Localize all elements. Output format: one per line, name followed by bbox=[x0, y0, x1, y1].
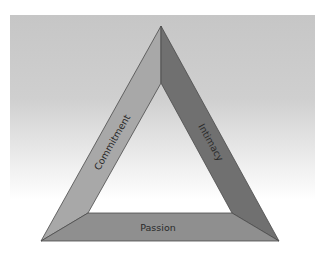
passion-label: Passion bbox=[140, 222, 176, 233]
intimacy-side bbox=[161, 26, 279, 241]
commitment-side bbox=[41, 26, 161, 241]
love-triangle-diagram: Commitment Intimacy Passion bbox=[0, 0, 320, 256]
